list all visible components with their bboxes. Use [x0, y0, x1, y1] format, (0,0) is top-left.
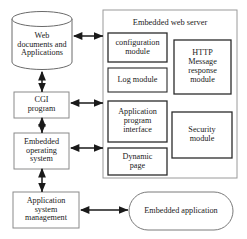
- log-module-shape: [108, 68, 167, 92]
- http-message-response-module-shape: [174, 40, 231, 94]
- security-module-shape: [172, 112, 232, 158]
- embedded-application-shape: [129, 192, 233, 230]
- application-system-management-shape: [13, 192, 79, 228]
- application-program-interface-shape: [108, 101, 167, 142]
- cgi-program-shape: [14, 92, 69, 118]
- diagram-shapes-layer: [0, 0, 247, 239]
- configuration-module-shape: [108, 33, 167, 62]
- web-documents-datastore-shape: [12, 12, 72, 70]
- embedded-os-shape: [14, 133, 69, 169]
- dynamic-page-shape: [108, 148, 167, 175]
- architecture-diagram: Web documents and Applications CGI progr…: [0, 0, 247, 239]
